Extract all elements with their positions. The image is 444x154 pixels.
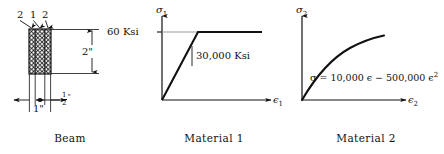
material-2-curve [302, 36, 384, 101]
material-1-chart [140, 0, 288, 154]
material-1-y-axis-label: σ1 [156, 5, 167, 18]
material-2-caption: Material 2 [288, 132, 444, 144]
beam-panel: 2 1 2 [0, 0, 140, 154]
beam-drawing [0, 0, 140, 154]
material-1-caption: Material 1 [140, 132, 288, 144]
material-2-equation: σ = 10,000 ϵ − 500,000 ϵ2 [310, 72, 438, 83]
material-1-slope-label: 30,000 Ksi [196, 51, 250, 61]
material-1-panel: σ1 ϵ1 60 Ksi 30,000 Ksi Material 1 [140, 0, 288, 154]
mechanics-figure: 2 1 2 [0, 0, 444, 154]
beam-height-dimension: 2" [82, 47, 93, 57]
material-1-x-axis-label: ϵ1 [273, 95, 283, 108]
material-2-axes [302, 16, 406, 100]
material-1-yield-label: 60 Ksi [107, 27, 139, 37]
inch-mark: " [67, 93, 70, 101]
material-2-y-axis-label: σ2 [296, 5, 307, 18]
material-2-x-axis-label: ϵ2 [408, 95, 418, 108]
beam-caption: Beam [0, 132, 140, 144]
beam-width-dimension: 1" [33, 104, 44, 114]
beam-strip-width-dimension: 1 2 " [61, 92, 71, 108]
material-1-curve [162, 32, 262, 100]
material-2-panel: σ2 ϵ2 σ = 10,000 ϵ − 500,000 ϵ2 Material… [288, 0, 444, 154]
beam-cross-section [29, 29, 51, 74]
